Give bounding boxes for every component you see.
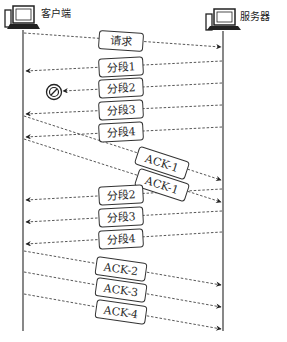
svg-text:分段1: 分段1 — [106, 59, 136, 74]
server-computer-icon — [206, 9, 241, 30]
message-segment-2-lost: 分段2 — [99, 78, 144, 98]
message-ack-4: ACK-4 — [95, 300, 147, 325]
svg-text:分段3: 分段3 — [106, 102, 136, 117]
svg-text:分段3: 分段3 — [106, 209, 136, 224]
svg-text:分段4: 分段4 — [106, 231, 136, 246]
svg-text:请求: 请求 — [110, 34, 133, 49]
message-segment-3: 分段3 — [99, 100, 144, 120]
client-label: 客户端 — [41, 7, 71, 19]
svg-text:分段4: 分段4 — [106, 124, 136, 139]
prohibited-icon — [47, 85, 62, 100]
svg-text:分段2: 分段2 — [106, 187, 136, 202]
message-segment-1: 分段1 — [99, 57, 144, 77]
message-segment-4: 分段4 — [99, 122, 144, 142]
message-request: 请求 — [98, 30, 143, 51]
server-label: 服务器 — [240, 10, 270, 22]
client-computer-icon — [5, 6, 40, 29]
message-segment-2-retransmit: 分段2 — [99, 185, 144, 205]
svg-text:分段2: 分段2 — [106, 80, 136, 95]
message-segment-4-retransmit: 分段4 — [99, 229, 144, 249]
message-segment-3-retransmit: 分段3 — [99, 207, 144, 227]
sequence-diagram: 客户端 服务器 请求 分段1 分段2 分段3 — [0, 0, 287, 342]
message-ack-3: ACK-3 — [95, 278, 147, 303]
message-ack-2: ACK-2 — [95, 257, 147, 282]
